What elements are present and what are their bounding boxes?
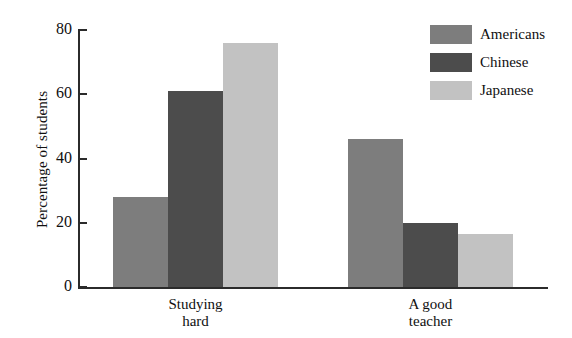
legend-item-label: Japanese bbox=[480, 83, 533, 98]
bar-chart: Percentage of students 020406080 Studyin… bbox=[0, 0, 572, 338]
bar-americans-0 bbox=[113, 197, 168, 287]
legend-swatch-icon bbox=[430, 25, 472, 44]
y-axis-tick-label: 0 bbox=[2, 278, 72, 294]
x-axis-label-line: teacher bbox=[351, 313, 511, 330]
y-axis-tick-label: 40 bbox=[2, 150, 72, 166]
bar-chinese-1 bbox=[403, 223, 458, 287]
y-axis-tick-label: 20 bbox=[2, 214, 72, 230]
bar-japanese-0 bbox=[223, 43, 278, 287]
y-axis-tick-label: 80 bbox=[2, 21, 72, 37]
x-axis-category-label: A goodteacher bbox=[351, 296, 511, 331]
x-axis-label-line: Studying bbox=[116, 296, 276, 313]
x-axis-label-line: hard bbox=[116, 313, 276, 330]
x-axis-category-label: Studyinghard bbox=[116, 296, 276, 331]
legend-item: Japanese bbox=[430, 78, 570, 103]
bar-americans-1 bbox=[348, 139, 403, 287]
legend-swatch-icon bbox=[430, 53, 472, 72]
legend-swatch-icon bbox=[430, 81, 472, 100]
legend-item: Americans bbox=[430, 22, 570, 47]
bar-japanese-1 bbox=[458, 234, 513, 287]
legend-item-label: Americans bbox=[480, 27, 545, 42]
bar-chinese-0 bbox=[168, 91, 223, 287]
x-axis-label-line: A good bbox=[351, 296, 511, 313]
y-axis-tick-label: 60 bbox=[2, 85, 72, 101]
chart-legend: AmericansChineseJapanese bbox=[430, 22, 570, 106]
legend-item: Chinese bbox=[430, 50, 570, 75]
legend-item-label: Chinese bbox=[480, 55, 528, 70]
